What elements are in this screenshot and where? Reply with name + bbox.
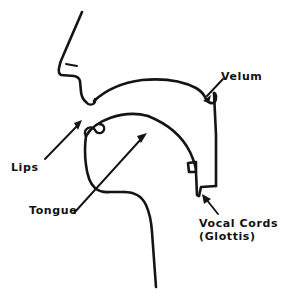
lips-arrow <box>45 120 82 159</box>
label-velum: Velum <box>221 70 262 83</box>
nostril-mark-path <box>66 64 77 66</box>
label-lips: Lips <box>11 161 39 174</box>
nose-and-face-profile-path <box>59 12 86 102</box>
vocal-cords-arrow <box>202 194 218 214</box>
label-tongue: Tongue <box>29 204 77 217</box>
pharyngeal-back-wall-path <box>214 93 216 186</box>
label-vocal-cords-line2: (Glottis) <box>199 230 278 243</box>
glottis-notch-right-path <box>199 186 216 196</box>
chin-and-neck-contour-path <box>124 192 156 287</box>
hard-palate-arch-path <box>94 79 206 101</box>
label-vocal-cords-line1: Vocal Cords <box>199 217 278 230</box>
velum-arrow <box>203 79 223 103</box>
vocal-tract-drawing <box>0 0 283 297</box>
label-vocal-cords: Vocal Cords(Glottis) <box>199 217 278 243</box>
pharyngeal-front-wall-path <box>148 116 196 172</box>
vocal-tract-figure: Velum Lips Tongue Vocal Cords(Glottis) <box>0 0 283 297</box>
tongue-body-path <box>86 114 148 136</box>
